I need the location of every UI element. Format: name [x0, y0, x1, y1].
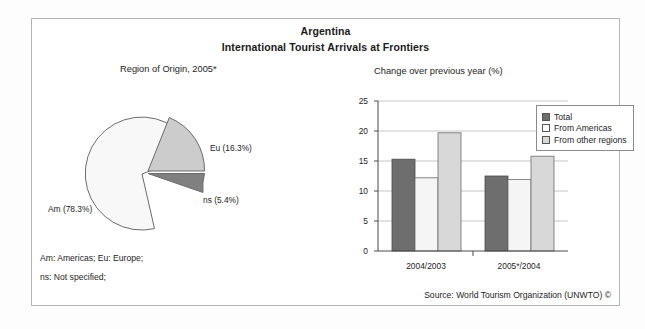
source-credit: Source: World Tourism Organization (UNWT…	[424, 290, 611, 300]
footnote-abbreviations: Am: Americas; Eu: Europe;	[40, 253, 143, 263]
bar-from-other-regions-2005-2004	[531, 156, 554, 251]
pie-chart-heading: Region of Origin, 2005*	[120, 64, 217, 74]
y-tick-label-5: 5	[346, 216, 368, 226]
legend-item-total[interactable]: Total	[542, 112, 627, 122]
footnote-not-specified: ns: Not specified;	[40, 272, 106, 282]
y-tick-label-20: 20	[346, 126, 368, 136]
legend-swatch-total	[542, 113, 550, 121]
pie-label-am: Am (78.3%)	[48, 204, 92, 214]
page-subtitle: International Tourist Arrivals at Fronti…	[32, 41, 619, 53]
pie-label-ns: ns (5.4%)	[203, 195, 239, 205]
y-tick-label-10: 10	[346, 186, 368, 196]
y-tick-label-0: 0	[346, 246, 368, 256]
y-tick-label-25: 25	[346, 96, 368, 106]
figure-page: Argentina International Tourist Arrivals…	[0, 0, 645, 329]
pie-slice-ns	[148, 174, 205, 193]
bar-chart: 25 20 15 10 5 0 2004/2003 2005*/2004 Tot…	[340, 81, 616, 291]
legend-label-total: Total	[554, 112, 572, 122]
bar-from-other-regions-2004-2003	[438, 133, 461, 251]
y-tick-label-15: 15	[346, 156, 368, 166]
bar-total-2005-2004	[485, 176, 508, 251]
chart-legend: Total From Americas From other regions	[536, 105, 634, 151]
legend-label-from-other-regions: From other regions	[554, 135, 627, 145]
legend-item-from-americas[interactable]: From Americas	[542, 123, 627, 133]
x-category-label-2: 2005*/2004	[489, 261, 549, 271]
pie-chart-svg	[42, 91, 292, 251]
legend-item-from-other-regions[interactable]: From other regions	[542, 135, 627, 145]
legend-label-from-americas: From Americas	[554, 123, 612, 133]
pie-label-eu: Eu (16.3%)	[210, 143, 252, 153]
figure-frame: Argentina International Tourist Arrivals…	[31, 18, 620, 306]
legend-swatch-from-americas	[542, 124, 550, 132]
page-title: Argentina	[32, 25, 619, 37]
bar-total-2004-2003	[392, 159, 415, 251]
pie-chart: Eu (16.3%) ns (5.4%) Am (78.3%)	[42, 91, 292, 251]
y-tick-marks	[374, 101, 378, 251]
bar-from-americas-2005-2004	[508, 180, 531, 251]
bar-from-americas-2004-2003	[415, 178, 438, 251]
x-category-label-1: 2004/2003	[396, 261, 456, 271]
bar-chart-heading: Change over previous year (%)	[374, 66, 503, 76]
legend-swatch-from-other-regions	[542, 136, 550, 144]
